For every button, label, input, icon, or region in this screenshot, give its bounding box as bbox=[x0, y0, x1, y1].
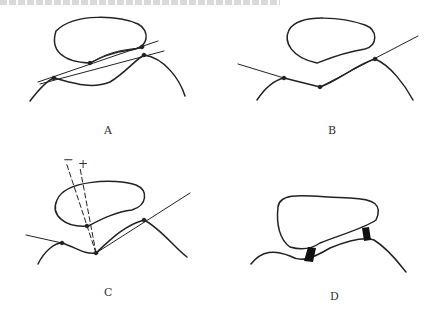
panel-b-drawing bbox=[238, 18, 418, 100]
panel-label-a: A bbox=[104, 124, 112, 137]
panel-label-c: C bbox=[104, 286, 112, 299]
minus-sign-label: − bbox=[63, 152, 74, 167]
panel-label-b: B bbox=[328, 124, 336, 137]
panel-a-drawing bbox=[30, 17, 185, 101]
panel-c-drawing bbox=[26, 162, 190, 264]
plus-sign-label: + bbox=[78, 157, 88, 171]
panel-label-d: D bbox=[330, 290, 339, 303]
panel-d-drawing bbox=[251, 196, 406, 272]
